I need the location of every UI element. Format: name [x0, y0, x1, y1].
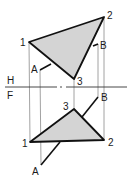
label-H: H — [7, 75, 14, 86]
top-label-A: A — [31, 64, 38, 75]
top-label-B: B — [100, 40, 107, 51]
front-label-3: 3 — [63, 101, 69, 112]
front-label-B: B — [101, 92, 108, 103]
front-label-A: A — [32, 166, 39, 177]
diagram-canvas: H F 1 2 3 A B 1 2 3 A B — [0, 0, 132, 179]
top-line-AB-segment-B — [93, 44, 98, 46]
projection-line-1 — [29, 42, 30, 142]
projection-line-A — [40, 70, 41, 165]
top-label-2: 2 — [107, 10, 113, 21]
top-view: 1 2 3 A B — [20, 10, 113, 87]
front-view: 1 2 3 A B — [22, 92, 114, 177]
front-label-2: 2 — [108, 137, 114, 148]
top-label-1: 1 — [20, 37, 26, 48]
top-line-AB-segment-A — [40, 64, 51, 70]
front-line-AB-segment-A — [41, 142, 60, 165]
top-label-3: 3 — [77, 76, 83, 87]
front-line-AB-segment-B — [82, 97, 98, 117]
label-F: F — [7, 90, 13, 101]
front-triangle — [30, 109, 104, 142]
front-label-1: 1 — [22, 138, 28, 149]
